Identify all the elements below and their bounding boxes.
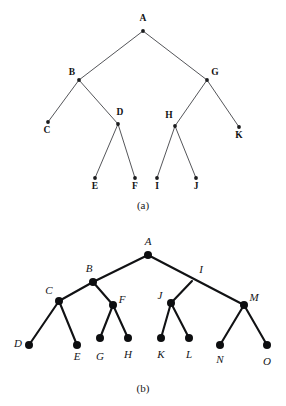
tree-node-j-dot <box>194 176 198 180</box>
tree-node-n-dot <box>216 341 224 349</box>
tree-node-l-dot <box>185 334 193 342</box>
tree-node-f-dot <box>133 176 137 180</box>
tree-edge-h-i <box>157 126 175 178</box>
tree-edge-g-h <box>175 80 207 126</box>
tree-node-g-label: G <box>211 67 219 77</box>
tree-node-o-dot <box>263 341 271 349</box>
tree-node-d-label: D <box>117 107 124 117</box>
tree-edge-c-d <box>29 301 59 345</box>
tree-edge-i-j <box>171 281 192 303</box>
tree-node-b-dot <box>77 78 81 82</box>
tree-node-e-dot <box>93 176 97 180</box>
tree-edge-a-g <box>143 31 207 80</box>
panel-b-caption: (b) <box>137 382 150 395</box>
tree-node-g-dot <box>205 78 209 82</box>
tree-node-i-dot <box>155 176 159 180</box>
tree-node-e-dot <box>73 341 81 349</box>
tree-edge-m-n <box>220 305 244 345</box>
tree-node-j-dot <box>167 299 175 307</box>
tree-edge-d-f <box>118 124 135 178</box>
tree-node-k-label: K <box>156 348 165 360</box>
panel-b-edge-group <box>29 255 267 345</box>
tree-node-i-label: I <box>198 263 204 275</box>
tree-node-b-label: B <box>69 67 76 77</box>
tree-node-g-dot <box>96 334 104 342</box>
tree-node-f-label: F <box>132 181 138 191</box>
panel-a-edge-group <box>48 31 239 178</box>
tree-edge-b-d <box>79 80 118 124</box>
tree-node-k-dot <box>237 125 241 129</box>
tree-node-k-dot <box>157 334 165 342</box>
tree-node-a-dot <box>141 29 145 33</box>
tree-node-d-label: D <box>13 337 22 349</box>
tree-node-g-label: G <box>96 350 104 362</box>
tree-node-m-label: M <box>248 291 259 303</box>
panel-a-caption: (a) <box>137 199 150 212</box>
tree-node-a-label: A <box>140 13 147 23</box>
panel-b-label-group: ABICFJMDEGHKLNO <box>13 235 271 367</box>
tree-node-h-dot <box>173 124 177 128</box>
tree-edge-b-f <box>93 282 113 305</box>
tree-node-d-dot <box>25 341 33 349</box>
tree-node-i-label: I <box>155 181 159 191</box>
tree-edge-h-j <box>175 126 196 178</box>
tree-node-e-label: E <box>73 350 81 362</box>
tree-node-h-label: H <box>165 110 173 120</box>
tree-node-h-dot <box>124 334 132 342</box>
tree-edge-c-e <box>59 301 77 345</box>
tree-node-h-label: H <box>123 348 133 360</box>
figure-root: ABGCDHKEFIJ ABICFJMDEGHKLNO (a) (b) <box>0 0 286 406</box>
tree-edge-b-c <box>59 282 93 301</box>
tree-figure-canvas: ABGCDHKEFIJ ABICFJMDEGHKLNO (a) (b) <box>0 0 286 406</box>
tree-node-a-label: A <box>144 235 152 247</box>
tree-node-f-dot <box>109 301 117 309</box>
panel-a-node-group <box>46 29 241 180</box>
tree-node-j-label: J <box>194 181 199 191</box>
tree-node-c-dot <box>46 120 50 124</box>
tree-edge-j-k <box>161 303 171 338</box>
tree-edge-g-k <box>207 80 239 127</box>
tree-node-j-label: J <box>158 289 164 301</box>
tree-edge-f-g <box>100 305 113 338</box>
tree-node-d-dot <box>116 122 120 126</box>
tree-node-l-label: L <box>185 348 192 360</box>
panel-a-label-group: ABGCDHKEFIJ <box>44 13 244 191</box>
tree-node-a-dot <box>144 251 152 259</box>
tree-node-k-label: K <box>235 130 243 140</box>
tree-edge-b-c <box>48 80 79 122</box>
tree-node-e-label: E <box>92 181 98 191</box>
tree-node-n-label: N <box>215 353 224 365</box>
tree-node-c-label: C <box>44 125 51 135</box>
tree-node-m-dot <box>240 301 248 309</box>
tree-node-o-label: O <box>263 355 271 367</box>
tree-edge-d-e <box>95 124 118 178</box>
tree-edge-a-b <box>79 31 143 80</box>
tree-node-b-label: B <box>86 262 93 274</box>
tree-edge-m-o <box>244 305 267 345</box>
tree-node-b-dot <box>89 278 97 286</box>
tree-edge-a-b <box>93 255 148 282</box>
tree-node-c-label: C <box>45 284 53 296</box>
tree-edge-f-h <box>113 305 128 338</box>
tree-node-c-dot <box>55 297 63 305</box>
tree-node-f-label: F <box>118 293 126 305</box>
tree-edge-j-l <box>171 303 189 338</box>
